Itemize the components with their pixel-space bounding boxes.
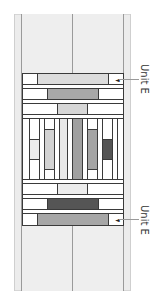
top-unit-arrow-icon: ◄ [115,77,120,83]
bottom-unit-label: Unit E [139,205,150,235]
top-unit-label: Unit E [139,64,150,94]
top-unit-leader-line [119,79,139,80]
frame-edge-right [130,14,131,291]
frame-edge-left [14,14,15,291]
col-14 [117,118,124,180]
bottom-unit-arrow-icon: ◄ [115,217,120,223]
bottom-unit-leader-line [119,219,139,220]
frame-line-center-bottom [72,225,73,291]
frame-line-center [72,14,73,73]
bottom-row3-gray-bar [37,213,109,226]
